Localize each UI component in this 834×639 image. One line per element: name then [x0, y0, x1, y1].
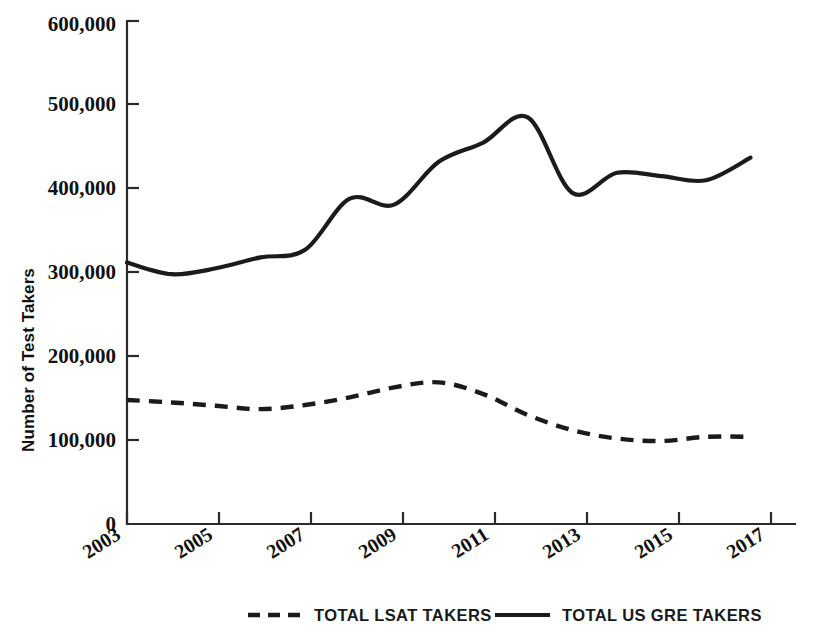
y-tick-label: 600,000	[48, 12, 116, 36]
chart-container: Number of Test Takers 0 100,000 200,000 …	[0, 0, 834, 639]
y-tick-marks	[127, 21, 139, 440]
y-tick-label: 200,000	[48, 344, 116, 368]
x-tick-label: 2013	[539, 523, 585, 563]
chart-legend: TOTAL LSAT TAKERS TOTAL US GRE TAKERS	[248, 606, 762, 624]
y-tick-label: 400,000	[48, 176, 116, 200]
x-tick-label: 2007	[263, 523, 309, 563]
x-tick-label: 2003	[79, 523, 125, 563]
x-tick-labels: 2003 2005 2007 2009 2011 2013 2015 2017	[79, 523, 769, 563]
y-tick-label: 300,000	[48, 260, 116, 284]
y-tick-label: 500,000	[48, 92, 116, 116]
series-line-total-us-gre-takers	[127, 116, 750, 275]
x-tick-label: 2005	[171, 523, 217, 563]
line-chart: Number of Test Takers 0 100,000 200,000 …	[0, 0, 834, 639]
y-tick-label: 100,000	[48, 428, 116, 452]
x-tick-label: 2011	[447, 523, 492, 562]
y-axis-title-text: Number of Test Takers	[19, 268, 38, 452]
legend-label-lsat: TOTAL LSAT TAKERS	[314, 606, 492, 624]
x-tick-label: 2009	[355, 523, 401, 563]
y-tick-labels: 0 100,000 200,000 300,000 400,000 500,00…	[48, 12, 116, 536]
x-tick-label: 2015	[631, 523, 677, 563]
x-tick-label: 2017	[723, 523, 769, 563]
x-tick-marks	[127, 512, 771, 524]
legend-label-gre: TOTAL US GRE TAKERS	[562, 606, 762, 624]
axis-lines	[127, 21, 795, 524]
series-line-total-lsat-takers	[127, 382, 750, 441]
y-axis-title: Number of Test Takers	[19, 268, 38, 452]
